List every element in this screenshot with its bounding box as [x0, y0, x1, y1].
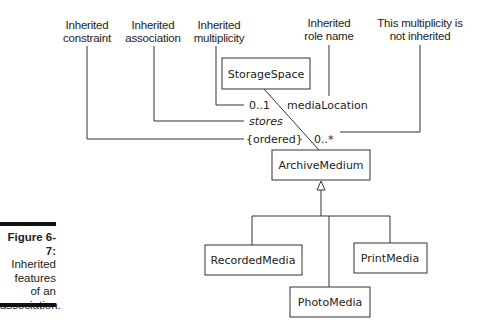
- annotation-not-inherited-line2: not inherited: [390, 30, 451, 42]
- medium-multiplicity: 0..*: [314, 133, 334, 146]
- class-storage-space-name: StorageSpace: [228, 68, 305, 81]
- generalization-arrowhead: [317, 181, 325, 190]
- caption-bottom-bar: [0, 303, 56, 307]
- class-photo-media-name: PhotoMedia: [298, 296, 362, 309]
- annotation-inherited-role-name-line1: Inherited: [308, 17, 351, 29]
- annotation-inherited-association-line1: Inherited: [132, 19, 175, 31]
- class-print-media-name: PrintMedia: [361, 252, 419, 265]
- caption-line: of an: [0, 285, 56, 299]
- role-name: mediaLocation: [287, 99, 368, 112]
- caption-top-bar: [0, 222, 56, 226]
- caption-line: Inherited: [0, 258, 56, 272]
- annotation-inherited-role-name-line2: role name: [304, 30, 353, 42]
- annotation-inherited-multiplicity-line1: Inherited: [198, 19, 241, 31]
- class-recorded-media-name: RecordedMedia: [211, 254, 296, 267]
- leader-line-not-inherited: [340, 45, 420, 132]
- association-constraint: {ordered}: [246, 133, 303, 146]
- caption-line: features: [0, 272, 56, 286]
- figure-label: Figure 6-7:: [0, 231, 56, 258]
- association-name: stores: [249, 115, 283, 128]
- annotation-inherited-association-line2: association: [125, 32, 180, 44]
- figure-caption: Figure 6-7: Inherited features of an ass…: [0, 231, 56, 312]
- leader-line-constraint: [87, 46, 244, 139]
- class-archive-medium-name: ArchiveMedium: [278, 159, 363, 172]
- annotation-inherited-multiplicity-line2: multiplicity: [194, 32, 245, 44]
- storage-multiplicity: 0..1: [249, 99, 270, 112]
- annotation-not-inherited-line1: This multiplicity is: [377, 17, 463, 29]
- uml-diagram: Inherited constraint Inherited associati…: [0, 0, 477, 333]
- annotation-inherited-constraint-line2: constraint: [63, 32, 112, 44]
- annotation-inherited-constraint-line1: Inherited: [66, 19, 109, 31]
